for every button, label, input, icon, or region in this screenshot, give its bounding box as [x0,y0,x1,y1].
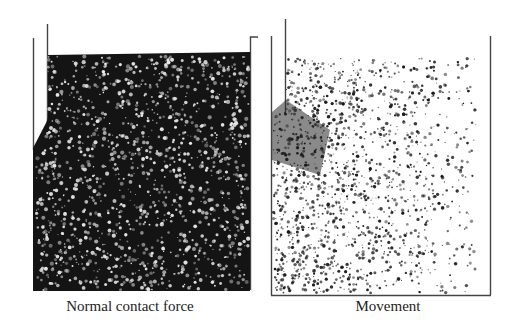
movement-plot [0,0,506,300]
panel-caption: Normal contact force [60,298,200,315]
figure-panel-movement: Movement [0,0,506,300]
panel-caption: Movement [318,298,458,315]
